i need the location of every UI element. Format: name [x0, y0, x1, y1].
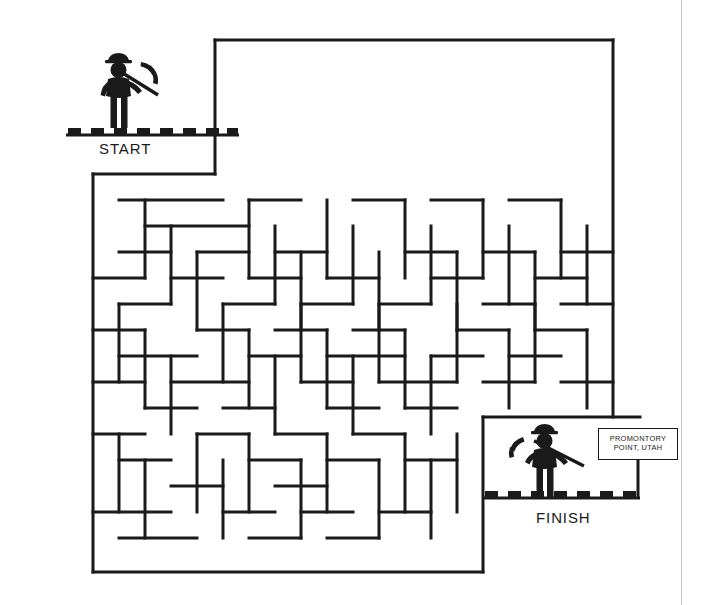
destination-sign: PROMONTORY POINT, UTAH	[598, 428, 678, 460]
finish-ground-line	[483, 491, 640, 498]
maze-graphic	[0, 0, 712, 605]
sign-line-2: POINT, UTAH	[614, 444, 663, 453]
miner-start-icon	[101, 53, 159, 128]
miner-finish-icon	[509, 424, 585, 498]
page-edge-rule	[681, 0, 682, 605]
start-label: START	[99, 140, 151, 157]
maze-puzzle-page: START FINISH PROMONTORY POINT, UTAH	[0, 0, 712, 605]
finish-label: FINISH	[536, 509, 591, 526]
start-ground-line	[66, 128, 239, 135]
